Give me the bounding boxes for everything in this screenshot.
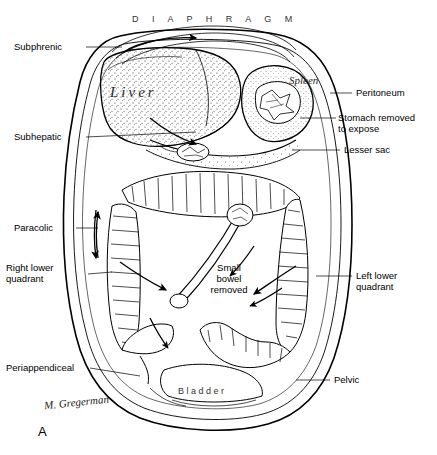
label-lesser-sac: Lesser sac (344, 144, 390, 155)
organ-label-spleen: Spleen (289, 74, 303, 86)
label-small-bowel-removed: Small bowel removed (196, 262, 262, 295)
label-pelvic: Pelvic (334, 374, 359, 385)
label-peritoneum: Peritoneum (356, 87, 405, 98)
label-periappendiceal: Periappendiceal (6, 362, 74, 373)
organ-label-diaphragm: D I A P H R A G M (132, 14, 298, 24)
transverse-colon (122, 171, 300, 216)
organ-label-bladder: Bladder (178, 386, 227, 396)
ascending-colon (107, 204, 140, 350)
leader-periappendiceal (90, 368, 140, 376)
panel-letter: A (38, 424, 47, 439)
label-left-lower-quadrant: Left lower quadrant (356, 270, 397, 292)
organ-label-liver: Liver (110, 84, 157, 101)
figure-root: D I A P H R A G M Liver Spleen Bladder S… (0, 0, 437, 455)
label-subhepatic: Subhepatic (14, 131, 62, 142)
label-right-lower-quadrant: Right lower quadrant (6, 262, 54, 284)
label-paracolic: Paracolic (14, 222, 53, 233)
label-stomach-removed: Stomach removed to expose (338, 112, 415, 134)
label-subphrenic: Subphrenic (14, 41, 62, 52)
